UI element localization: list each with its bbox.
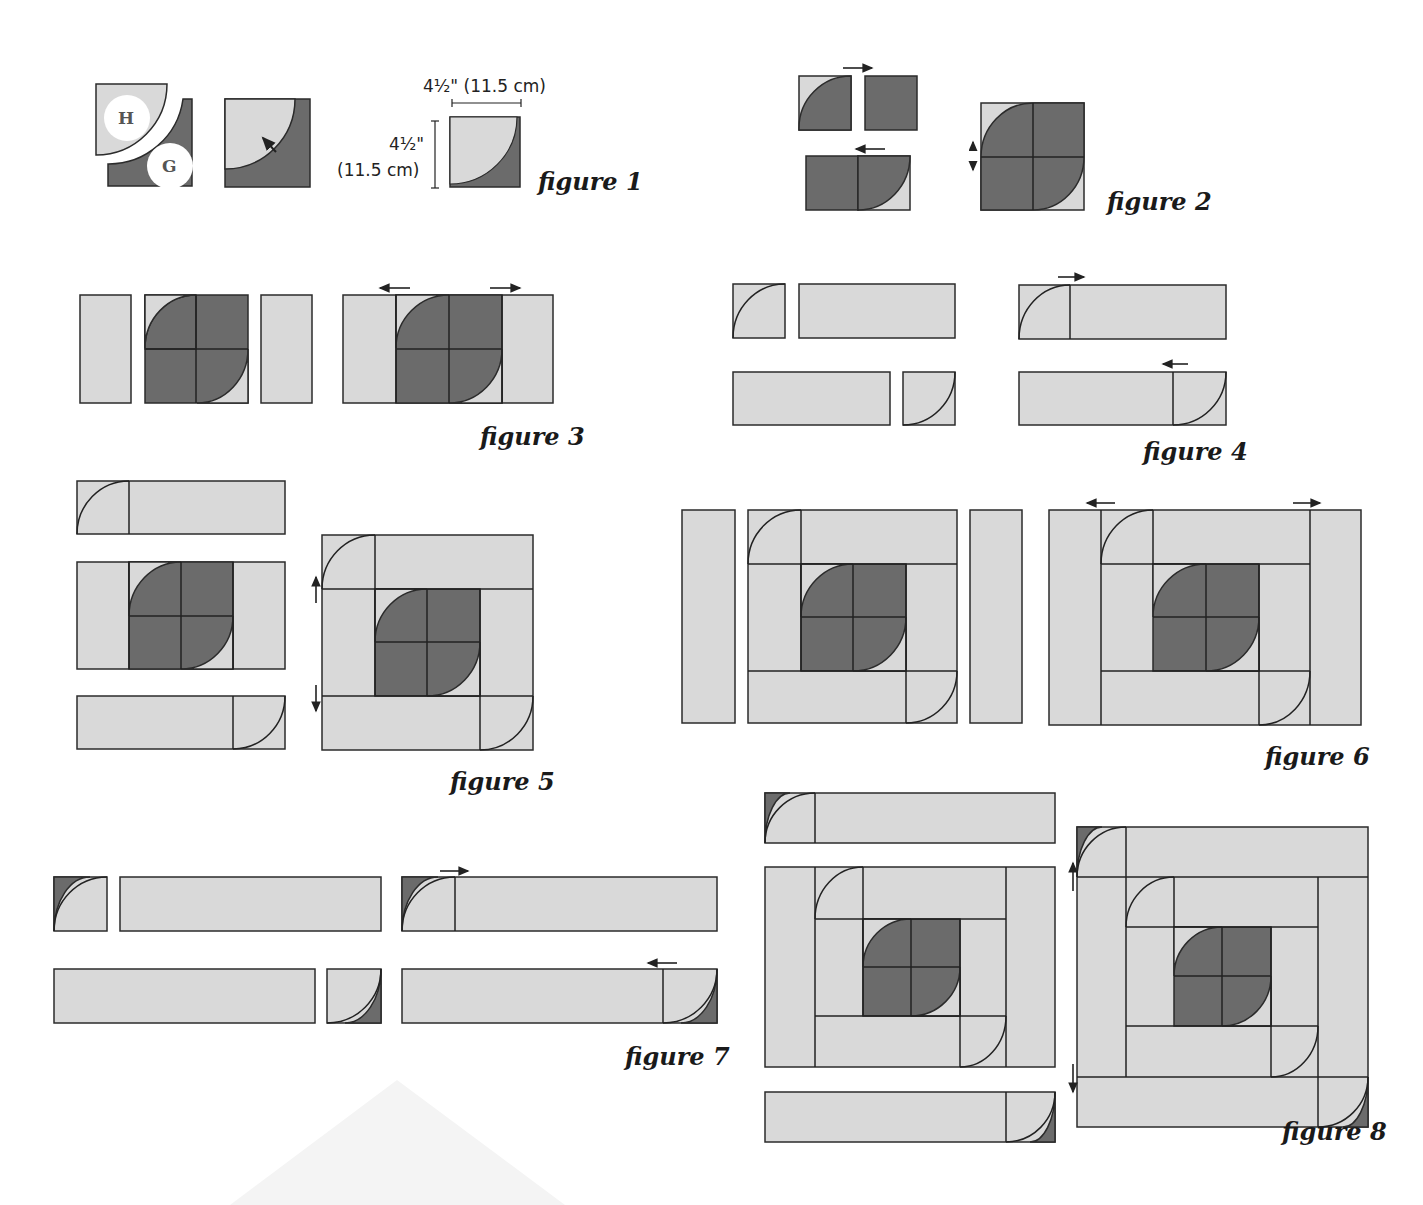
figure-2 [799,76,1084,210]
figure-1: H G 4½" (11.5 cm) 4½" (11.5 cm) [96,76,546,189]
quilt-diagram-canvas: H G 4½" (11.5 cm) 4½" (11.5 cm) [0,0,1423,1205]
figure-2-label: figure 2 [1105,187,1212,216]
light-fabric-piece [903,372,955,425]
figure-8-label: figure 8 [1280,1117,1387,1146]
light-fabric-piece [402,877,717,931]
figure-3-label: figure 3 [478,422,585,451]
badge-h-letter: H [118,108,134,128]
light-fabric-piece [402,969,717,1023]
figure-4-label: figure 4 [1141,437,1248,466]
unit-dark-square [865,76,917,130]
light-fabric-piece [682,510,735,723]
light-fabric-piece [80,295,131,403]
width-dimension-text: 4½" (11.5 cm) [423,76,546,96]
figure-1-label: figure 1 [536,167,643,196]
light-fabric-piece [77,696,285,749]
figure-5-label: figure 5 [448,767,555,796]
light-fabric-piece [765,1092,1055,1142]
figure-6-label: figure 6 [1263,742,1370,771]
height-dimension-text-1: 4½" [389,134,424,154]
light-fabric-piece [1019,285,1226,339]
light-fabric-piece [54,969,315,1023]
height-dimension-text-2: (11.5 cm) [337,160,419,180]
light-fabric-piece [733,372,890,425]
badge-g-letter: G [162,156,177,176]
pair-dark-left [806,156,858,210]
light-fabric-piece [970,510,1022,723]
light-fabric-piece [261,295,312,403]
light-fabric-piece [733,284,785,338]
light-fabric-piece [77,481,285,534]
figure-7-label: figure 7 [623,1042,730,1071]
light-fabric-piece [1019,372,1226,425]
light-fabric-piece [765,793,1055,843]
ghost-triangle-watermark [230,1080,565,1205]
light-fabric-piece [799,284,955,338]
light-fabric-piece [120,877,381,931]
